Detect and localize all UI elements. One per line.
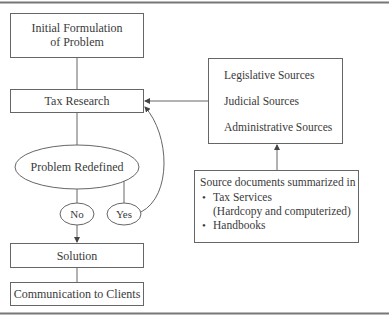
node-source-documents: Source documents summarized in • Tax Ser… [195, 171, 359, 243]
legislative-sources: Legislative Sources [224, 69, 315, 82]
yes-label: Yes [116, 208, 132, 220]
tax-research-flowchart: Initial Formulation of Problem Tax Resea… [0, 0, 389, 321]
bullet-icon: • [202, 191, 206, 203]
node-initial-formulation: Initial Formulation of Problem [11, 14, 144, 58]
tax-services-item: Tax Services [213, 191, 272, 203]
node-no: No [60, 203, 94, 225]
edge-yes-tax-loop [141, 107, 164, 212]
node-yes: Yes [107, 203, 141, 225]
solution-label: Solution [57, 249, 98, 263]
node-communication: Communication to Clients [11, 283, 144, 306]
node-sources: Legislative Sources Judicial Sources Adm… [209, 59, 343, 144]
handbooks-item: Handbooks [213, 219, 266, 231]
administrative-sources: Administrative Sources [224, 121, 333, 133]
tax-research-label: Tax Research [45, 94, 110, 108]
no-label: No [70, 208, 84, 220]
judicial-sources: Judicial Sources [224, 95, 300, 107]
tax-services-detail: (Hardcopy and computerized) [213, 205, 351, 218]
node-solution: Solution [11, 244, 144, 268]
initial-line2: of Problem [50, 35, 104, 49]
initial-line1: Initial Formulation [32, 21, 123, 35]
communication-label: Communication to Clients [14, 287, 141, 301]
source-docs-heading: Source documents summarized in [200, 176, 356, 188]
problem-redefined-label: Problem Redefined [31, 160, 124, 174]
node-problem-redefined: Problem Redefined [15, 145, 139, 189]
bullet-icon: • [202, 219, 206, 231]
node-tax-research: Tax Research [11, 90, 144, 113]
